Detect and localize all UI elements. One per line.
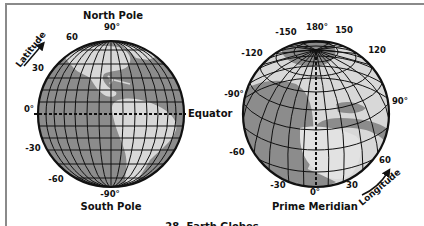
tick-lon-150: 150	[335, 25, 353, 35]
tick-lon-90: 90°	[392, 96, 408, 106]
tick-lat-minus-30: -30	[25, 143, 40, 153]
tick-lat-90: 90°	[104, 22, 120, 32]
figure-caption: 28. Earth Globes	[165, 221, 259, 226]
tick-lat-minus-60: -60	[48, 174, 63, 184]
tick-lon-minus-30: -30	[270, 180, 285, 190]
tick-lon-minus-120: -120	[241, 48, 262, 58]
tick-lon-30: 30	[346, 180, 358, 190]
tick-lat-minus-90: -90°	[100, 189, 120, 199]
latitude-globe: North Pole 90° 60 30 0° -30 -60 -90° Sou…	[14, 10, 233, 212]
longitude-globe: 180° -150 150 -120 120 -90° 90° -60 60 -…	[218, 22, 414, 212]
tick-lat-30: 30	[32, 63, 44, 73]
north-pole-label: North Pole	[83, 10, 143, 21]
tick-lon-60: 60	[379, 155, 391, 165]
tick-lat-60: 60	[66, 32, 78, 42]
tick-lon-minus-60: -60	[229, 147, 244, 157]
tick-lon-0: 0°	[310, 187, 320, 197]
south-pole-label: South Pole	[81, 201, 142, 212]
prime-meridian-label: Prime Meridian	[272, 201, 358, 212]
equator-label: Equator	[188, 108, 233, 119]
earth-globes-diagram: North Pole 90° 60 30 0° -30 -60 -90° Sou…	[0, 0, 424, 226]
tick-lon-minus-90: -90°	[224, 89, 244, 99]
tick-lon-120: 120	[368, 45, 386, 55]
longitude-axis-label: Longitude	[357, 167, 403, 208]
tick-lon-180: 180°	[306, 22, 328, 32]
tick-lon-minus-150: -150	[275, 27, 296, 37]
tick-lat-0: 0°	[24, 104, 34, 114]
